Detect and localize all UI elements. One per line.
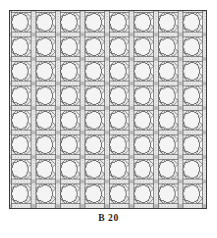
cane-weave-pattern-plate — [9, 10, 207, 209]
figure-root: B 20 — [0, 0, 217, 238]
figure-caption: B 20 — [0, 212, 217, 224]
weave-field — [10, 11, 207, 209]
cane-weave-svg — [9, 10, 207, 209]
